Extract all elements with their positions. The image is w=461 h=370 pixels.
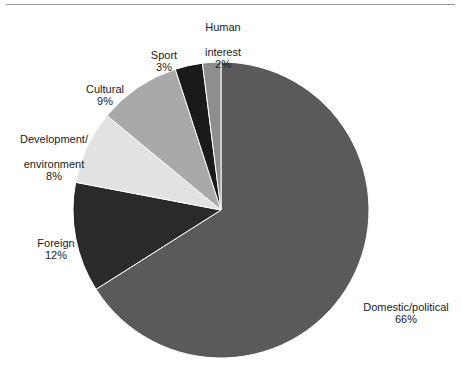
- slice-label-domestic-line1: Domestic/political: [363, 301, 449, 313]
- slice-label-development-line1: Development/: [20, 133, 88, 145]
- slice-value-domestic-political: 66%: [352, 313, 460, 326]
- slice-label-human-interest-line1: Human: [205, 21, 240, 33]
- slice-label-human-interest-line2: interest: [205, 46, 241, 58]
- slice-label-cultural-line1: Cultural: [86, 83, 124, 95]
- slice-label-foreign-line1: Foreign: [37, 237, 74, 249]
- slice-label-development-line2: environment: [24, 158, 85, 170]
- slice-label-foreign: Foreign 12%: [20, 224, 92, 274]
- slice-value-human-interest: 2%: [186, 58, 260, 71]
- slice-value-foreign: 12%: [20, 249, 92, 262]
- slice-value-development-environment: 8%: [2, 170, 106, 183]
- slice-label-domestic-political: Domestic/political 66%: [352, 288, 460, 338]
- slice-label-cultural: Cultural 9%: [74, 70, 136, 120]
- slice-value-sport: 3%: [136, 61, 192, 74]
- slice-label-sport: Sport 3%: [136, 36, 192, 86]
- pie-chart-figure: Human interest 2% Sport 3% Cultural 9% D…: [0, 0, 461, 370]
- slice-label-development-environment: Development/ environment 8%: [2, 120, 106, 195]
- slice-label-sport-line1: Sport: [151, 49, 177, 61]
- slice-label-human-interest: Human interest 2%: [186, 8, 260, 83]
- slice-value-cultural: 9%: [74, 95, 136, 108]
